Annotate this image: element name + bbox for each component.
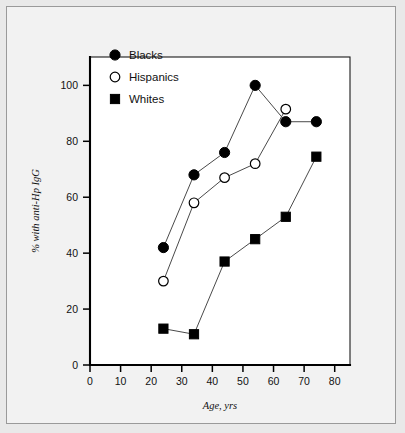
datapoint-blacks-74 xyxy=(311,117,321,127)
datapoint-blacks-24 xyxy=(158,242,168,252)
datapoint-hispanics-24 xyxy=(159,276,169,286)
datapoint-blacks-54 xyxy=(250,80,260,90)
x-tick-label: 10 xyxy=(115,375,127,387)
x-tick-label: 50 xyxy=(237,375,249,387)
y-axis-title: % with anti-Hp IgG xyxy=(30,169,41,253)
datapoint-blacks-64 xyxy=(281,117,291,127)
x-tick-label: 20 xyxy=(145,375,157,387)
legend-label-hispanics: Hispanics xyxy=(129,71,179,83)
x-tick-label: 30 xyxy=(176,375,188,387)
datapoint-whites-64 xyxy=(281,212,290,221)
datapoint-blacks-34 xyxy=(189,170,199,180)
x-tick-label: 80 xyxy=(329,375,341,387)
scatter-line-chart: 01020304050607080020406080100Age, yrs% w… xyxy=(7,7,397,425)
legend-marker-hispanics xyxy=(110,72,120,82)
legend-label-blacks: Blacks xyxy=(129,49,163,61)
datapoint-whites-24 xyxy=(159,324,168,333)
y-tick-label: 80 xyxy=(66,135,78,147)
datapoint-hispanics-34 xyxy=(189,198,199,208)
y-tick-label: 100 xyxy=(60,79,78,91)
y-tick-label: 60 xyxy=(66,191,78,203)
datapoint-whites-74 xyxy=(312,152,321,161)
datapoint-hispanics-64 xyxy=(281,104,291,114)
datapoint-whites-34 xyxy=(189,330,198,339)
x-axis-title: Age, yrs xyxy=(202,400,237,411)
legend-marker-blacks xyxy=(110,50,120,60)
x-tick-label: 40 xyxy=(207,375,219,387)
datapoint-hispanics-44 xyxy=(220,173,230,183)
datapoint-hispanics-54 xyxy=(250,159,260,169)
legend-marker-whites xyxy=(110,94,119,103)
datapoint-whites-54 xyxy=(251,235,260,244)
figure-panel: 01020304050607080020406080100Age, yrs% w… xyxy=(6,6,396,424)
legend-label-whites: Whites xyxy=(129,93,164,105)
y-tick-label: 40 xyxy=(66,247,78,259)
x-tick-label: 70 xyxy=(298,375,310,387)
datapoint-blacks-44 xyxy=(219,147,229,157)
y-tick-label: 20 xyxy=(66,303,78,315)
x-tick-label: 0 xyxy=(87,375,93,387)
datapoint-whites-44 xyxy=(220,257,229,266)
y-tick-label: 0 xyxy=(72,359,78,371)
x-tick-label: 60 xyxy=(268,375,280,387)
